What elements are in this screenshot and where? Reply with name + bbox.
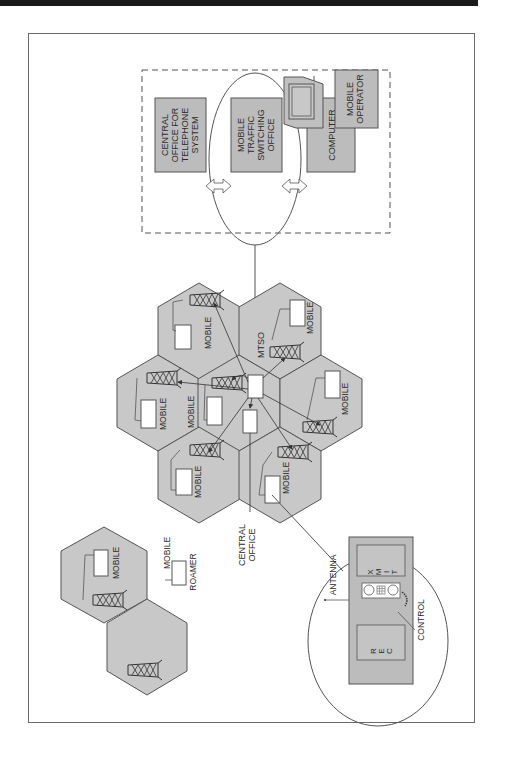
central-office-label-line3: TELEPHONE	[180, 108, 190, 163]
mobile-unit-detail: X M I T R E C ANTENNA CONTROL	[308, 537, 448, 726]
monitor-icon	[283, 76, 323, 131]
mobile-unit-icon	[207, 397, 222, 425]
mobile-label: MOBILE	[281, 462, 291, 494]
mobile-unit-icon	[265, 476, 280, 503]
mobile-unit-icon	[94, 550, 108, 576]
central-office-label-line2: OFFICE FOR	[170, 107, 180, 162]
mobile-unit-icon	[141, 400, 156, 428]
roamer-icon	[172, 561, 186, 585]
central-office-box-small	[243, 410, 257, 433]
mtso-switch-box	[248, 375, 263, 398]
operator-label-line2: OPERATOR	[355, 74, 365, 124]
double-arrow-icon	[282, 179, 307, 193]
central-office-box: CENTRAL OFFICE FOR TELEPHONE SYSTEM	[155, 98, 206, 172]
antenna-label: ANTENNA	[328, 554, 338, 595]
svg-text:CENTRAL: CENTRAL	[237, 524, 247, 566]
mobile-label: MOBILE	[111, 547, 121, 579]
mobile-operator-box: MOBILE OPERATOR	[335, 70, 378, 128]
mtso-label: MTSO	[256, 332, 266, 358]
mobile-label: MOBILE	[158, 398, 168, 430]
mobile-label: MOBILE	[193, 466, 203, 498]
central-office-label-line4: SYSTEM	[190, 116, 200, 153]
control-label: CONTROL	[416, 599, 426, 641]
cellular-system-diagram: CENTRAL OFFICE FOR TELEPHONE SYSTEM MOBI…	[0, 0, 505, 759]
mobile-unit-icon	[176, 469, 192, 495]
central-office-label-line1: CENTRAL	[160, 114, 170, 156]
operator-label-line1: MOBILE	[345, 82, 355, 116]
svg-text:T: T	[390, 569, 399, 574]
mtso-label-line4: OFFICE	[266, 119, 276, 152]
control-center: CENTRAL OFFICE FOR TELEPHONE SYSTEM MOBI…	[142, 70, 390, 245]
double-arrow-icon	[206, 179, 231, 193]
central-office-label: CENTRAL OFFICE	[237, 524, 257, 566]
mobile-label: MOBILE	[186, 396, 196, 428]
mtso-label-line2: TRAFFIC	[246, 116, 256, 154]
legend-mobile-label: MOBILE	[162, 537, 172, 569]
mtso-box: MOBILE TRAFFIC SWITCHING OFFICE	[231, 98, 282, 172]
mobile-label: MOBILE	[305, 302, 315, 334]
roamer-area: MOBILE MOBILE ROAMER	[61, 527, 198, 695]
svg-text:OFFICE: OFFICE	[247, 529, 257, 562]
rec-section	[357, 625, 405, 660]
mobile-label: MOBILE	[203, 317, 213, 349]
mobile-unit-icon	[290, 300, 305, 326]
legend-roamer-label: ROAMER	[188, 553, 198, 590]
mobile-unit-icon	[175, 325, 191, 349]
mtso-label-line1: MOBILE	[236, 118, 246, 152]
mobile-unit-icon	[325, 371, 340, 398]
mobile-label: MOBILE	[340, 383, 350, 415]
mtso-label-line3: SWITCHING	[256, 109, 266, 161]
rec-label: R E C	[369, 648, 394, 654]
svg-text:C: C	[385, 648, 394, 654]
